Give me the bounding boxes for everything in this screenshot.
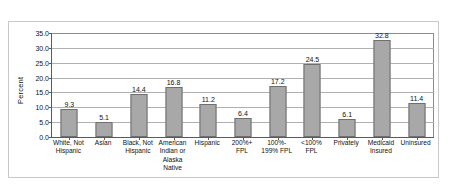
bar-slot: 6.4 <box>226 33 261 137</box>
y-axis-tick-label: 0.0 <box>24 134 49 141</box>
x-axis-category-label: Uninsured <box>395 139 436 147</box>
bar[interactable] <box>61 109 78 137</box>
y-axis-tick-mark <box>49 137 52 138</box>
bar[interactable] <box>304 64 321 137</box>
bar-value-label: 14.4 <box>132 86 146 93</box>
bar-value-label: 16.8 <box>167 79 181 86</box>
bar-value-label: 32.8 <box>375 32 389 39</box>
bar-slot: 16.8 <box>156 33 191 137</box>
bar-value-label: 6.4 <box>238 110 248 117</box>
bar[interactable] <box>234 118 251 137</box>
y-axis-tick-label: 30.0 <box>24 44 49 51</box>
bar[interactable] <box>165 87 182 137</box>
y-axis-tick-label: 25.0 <box>24 59 49 66</box>
bar[interactable] <box>96 122 113 137</box>
bar-slot: 11.2 <box>191 33 226 137</box>
bar-value-label: 6.1 <box>342 111 352 118</box>
plot-area: 9.35.114.416.811.26.417.224.56.132.811.4 <box>51 33 434 138</box>
bar-slot: 14.4 <box>121 33 156 137</box>
bar-series: 9.35.114.416.811.26.417.224.56.132.811.4 <box>52 33 434 137</box>
y-axis-tick-labels: 0.05.010.015.020.025.030.035.0 <box>24 33 49 137</box>
bar-value-label: 11.2 <box>202 96 215 103</box>
bar[interactable] <box>200 104 217 137</box>
bar[interactable] <box>408 103 425 137</box>
y-axis-tick-label: 5.0 <box>24 119 49 126</box>
bar[interactable] <box>269 86 286 137</box>
bar-slot: 11.4 <box>399 33 434 137</box>
bar-value-label: 17.2 <box>271 78 285 85</box>
bar-value-label: 24.5 <box>306 56 320 63</box>
bar-slot: 5.1 <box>87 33 122 137</box>
y-axis-tick-label: 10.0 <box>24 104 49 111</box>
bar[interactable] <box>373 40 390 137</box>
bar-value-label: 5.1 <box>99 114 109 121</box>
bar[interactable] <box>130 94 147 137</box>
bar[interactable] <box>339 119 356 137</box>
bar-value-label: 11.4 <box>410 95 423 102</box>
bar-slot: 24.5 <box>295 33 330 137</box>
bar-slot: 17.2 <box>260 33 295 137</box>
bar-value-label: 9.3 <box>64 101 74 108</box>
bar-slot: 9.3 <box>52 33 87 137</box>
chart-figure: Percent 0.05.010.015.020.025.030.035.0 9… <box>0 0 451 196</box>
bar-slot: 6.1 <box>330 33 365 137</box>
y-axis-tick-label: 15.0 <box>24 89 49 96</box>
x-axis-category-labels: White, Not HispanicAsianBlack, Not Hispa… <box>51 139 433 187</box>
y-axis-tick-label: 35.0 <box>24 30 49 37</box>
bar-slot: 32.8 <box>365 33 400 137</box>
y-axis-tick-label: 20.0 <box>24 74 49 81</box>
